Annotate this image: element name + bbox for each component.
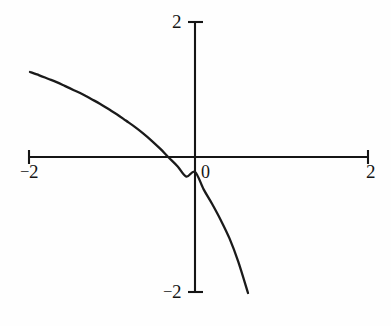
x-axis-tick-label-right: 2	[366, 162, 376, 181]
origin-label: 0	[201, 163, 210, 181]
data-curve-group	[30, 72, 248, 293]
graph-canvas	[0, 0, 391, 326]
x-axis-tick-label-left: 2	[21, 162, 39, 181]
y-axis-tick-label-bottom: 2	[164, 282, 182, 301]
figure-root: 2 2 2 2 0	[0, 0, 391, 326]
y-axis-tick-label-top: 2	[172, 12, 182, 31]
data-curve	[30, 72, 248, 293]
axes-group	[29, 22, 368, 292]
